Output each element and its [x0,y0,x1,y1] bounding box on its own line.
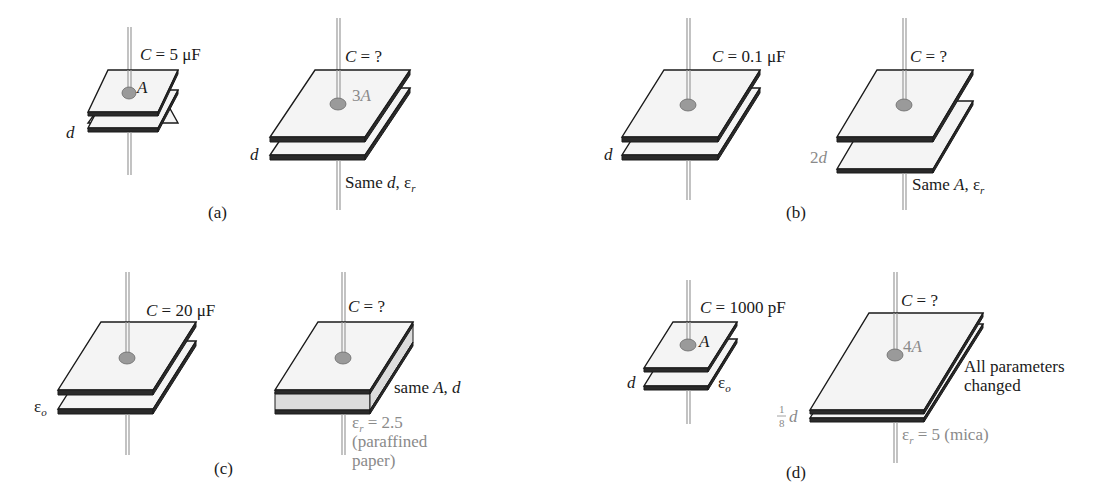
panel-c-right-material-line1: (paraffined [352,432,428,451]
panel-c-right-note: same A, d [394,378,461,397]
panel-d: C = 1000 pF A d εo C = ? 4A All p [627,272,1065,482]
panel-a-left-area-label: A [136,78,148,97]
panel-d-right-note-line2: changed [964,376,1021,395]
panel-a-right-note: Same d, εr [345,173,416,194]
panel-c-right-material-line2: paper) [352,451,395,470]
panel-b-right-separation-label: 2d [810,148,828,167]
panel-b-left-capacitance-label: C = 0.1 μF [712,47,786,66]
panel-d-right-dielectric-label: εr = 5 (mica) [902,425,989,446]
panel-b-right-note: Same A, εr [912,175,985,196]
panel-b-left-capacitor [622,18,760,200]
panel-a-left-separation-label: d [66,123,75,142]
panel-c: C = 20 μF εo (c) C = ? [34,272,461,478]
panel-d-right-separation-label: 1 8 d [777,403,798,429]
panel-b: C = 0.1 μF d C = ? 2d Same A, εr (b) [604,18,985,222]
panel-d-left-area-label: A [698,332,710,351]
panel-d-left-dielectric-label: εo [718,373,731,394]
panel-c-left-capacitor [58,272,196,455]
svg-text:8: 8 [779,417,785,429]
panel-c-caption: (c) [214,459,233,478]
panel-d-caption: (d) [786,463,806,482]
panel-c-left-dielectric-label: εo [34,397,47,418]
panel-b-left-separation-label: d [604,145,613,164]
panel-d-left-capacitance-label: C = 1000 pF [700,298,786,317]
panel-a-caption: (a) [208,203,227,222]
panel-c-right-capacitance-label: C = ? [348,297,385,316]
svg-text:d: d [789,407,798,426]
svg-text:1: 1 [779,403,785,415]
panel-a-right-capacitance-label: C = ? [345,47,382,66]
panel-c-left-capacitance-label: C = 20 μF [146,301,215,320]
panel-a-right-area-label: 3A [352,86,372,105]
panel-b-caption: (b) [786,203,806,222]
panel-d-right-area-label: 4A [903,337,923,356]
panel-d-right-capacitance-label: C = ? [901,291,938,310]
panel-d-right-note-line1: All parameters [964,357,1065,376]
panel-a-right-separation-label: d [250,145,259,164]
panel-c-right-dielectric-label: εr = 2.5 [352,413,403,434]
panel-b-right-capacitance-label: C = ? [910,47,947,66]
capacitor-diagram: C = 5 μF A d C = ? 3A d [0,0,1115,502]
panel-a: C = 5 μF A d C = ? 3A d [66,18,416,222]
panel-d-left-separation-label: d [627,373,636,392]
panel-a-left-capacitance-label: C = 5 μF [140,45,201,64]
